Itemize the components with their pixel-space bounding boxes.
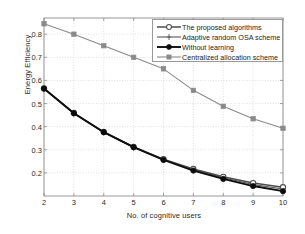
legend-marker-plus-tick-icon xyxy=(156,32,182,42)
legend-label: Adaptive random OSA scheme xyxy=(182,33,280,42)
legend-label: Without learning xyxy=(182,43,234,52)
legend-marker-filled-circle-icon xyxy=(156,42,182,52)
figure-canvas: Energy Efficiency No. of cognitive users… xyxy=(0,0,305,234)
legend-marker-filled-square-icon xyxy=(156,52,182,62)
legend-label: Centralized allocation scheme xyxy=(182,53,278,62)
legend-item[interactable]: Centralized allocation scheme xyxy=(156,52,279,62)
legend-item[interactable]: The proposed algorithms xyxy=(156,22,279,32)
chart-legend[interactable]: The proposed algorithmsAdaptive random O… xyxy=(152,19,283,62)
legend-label: The proposed algorithms xyxy=(182,23,262,32)
legend-item[interactable]: Without learning xyxy=(156,42,279,52)
legend-marker-open-circle-icon xyxy=(156,22,182,32)
legend-item[interactable]: Adaptive random OSA scheme xyxy=(156,32,279,42)
